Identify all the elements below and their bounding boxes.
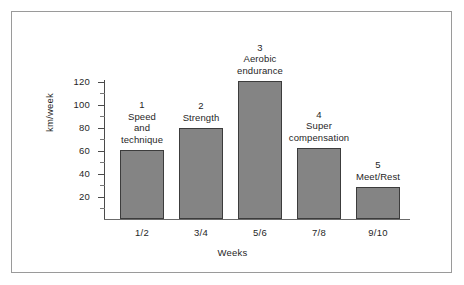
bar-1[interactable] bbox=[120, 150, 164, 219]
plot-area: 120 100 80 60 40 20 km/week 1 Speed and … bbox=[12, 12, 453, 274]
y-tick-120 bbox=[98, 82, 105, 83]
y-tick-label-20: 20 bbox=[50, 192, 90, 202]
x-axis-line bbox=[104, 219, 410, 220]
y-tick-minor-30 bbox=[100, 185, 105, 186]
y-axis-title: km/week bbox=[45, 93, 55, 132]
chart-frame: 120 100 80 60 40 20 km/week 1 Speed and … bbox=[11, 11, 452, 273]
y-tick-minor-50 bbox=[100, 162, 105, 163]
bar-label-3: 3 Aerobic endurance bbox=[200, 42, 320, 77]
bar-5[interactable] bbox=[356, 187, 400, 219]
bar-2[interactable] bbox=[179, 128, 223, 219]
bar-label-4: 4 Super compensation bbox=[259, 109, 379, 144]
x-axis-title: Weeks bbox=[12, 248, 453, 258]
y-tick-label-60: 60 bbox=[50, 146, 90, 156]
y-tick-label-40: 40 bbox=[50, 169, 90, 179]
y-tick-60 bbox=[98, 151, 105, 152]
y-tick-40 bbox=[98, 174, 105, 175]
y-tick-minor-110 bbox=[100, 93, 105, 94]
x-tick-label-5: 9/10 bbox=[338, 228, 418, 238]
y-tick-20 bbox=[98, 197, 105, 198]
bar-3[interactable] bbox=[238, 81, 282, 219]
y-tick-minor-10 bbox=[100, 208, 105, 209]
y-tick-label-120: 120 bbox=[50, 77, 90, 87]
bar-label-5: 5 Meet/Rest bbox=[318, 159, 438, 182]
